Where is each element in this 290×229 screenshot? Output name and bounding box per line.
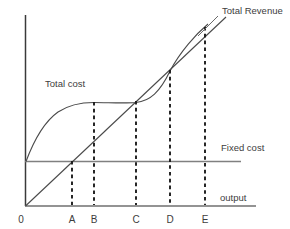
tick-label-D: D [166,214,173,225]
tick-label-origin: 0 [18,214,24,225]
total-revenue-label: Total Revenue [222,5,283,16]
x-tick-labels: 0 A B C D E [18,214,208,225]
output-axis-label: output [220,192,247,203]
chart-canvas: Total Revenue Total cost Fixed cost outp… [0,0,290,229]
total-revenue-line [26,17,227,206]
tick-label-E: E [202,214,209,225]
total-revenue-leader-line [198,16,218,36]
break-even-chart: Total Revenue Total cost Fixed cost outp… [0,0,290,229]
fixed-cost-label: Fixed cost [221,142,265,153]
tick-label-C: C [132,214,139,225]
total-cost-label: Total cost [45,78,85,89]
total-cost-curve [26,24,208,162]
dropline-group [72,27,205,205]
tick-label-B: B [91,214,98,225]
tick-label-A: A [69,214,76,225]
